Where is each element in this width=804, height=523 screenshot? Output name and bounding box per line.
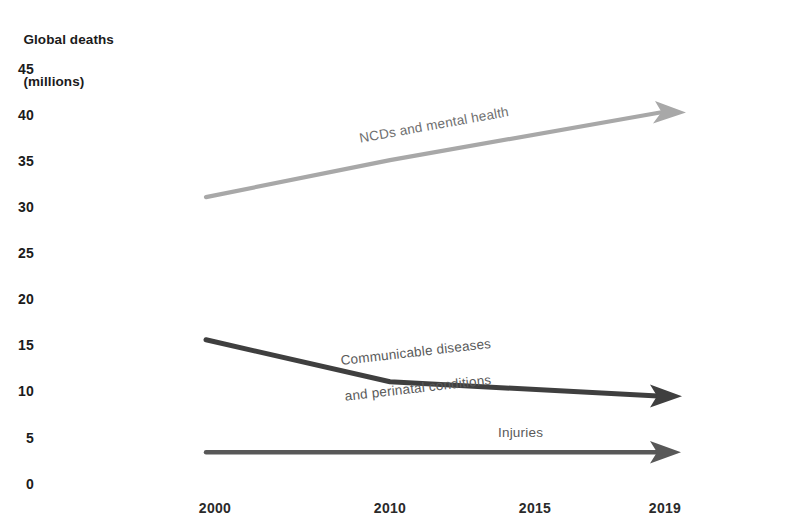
series-label-communicable-line1: Communicable diseases <box>340 336 492 368</box>
chart-container: Global deaths (millions) 45 40 35 30 25 … <box>0 0 804 523</box>
series-label-communicable: Communicable diseases and perinatal cond… <box>322 317 498 425</box>
x-tick-2015: 2015 <box>500 500 570 516</box>
series-label-communicable-line2: and perinatal conditions <box>344 372 492 404</box>
series-label-injuries: Injuries <box>498 424 543 442</box>
x-tick-2010: 2010 <box>355 500 425 516</box>
series-line-injuries <box>206 441 681 463</box>
x-tick-2019: 2019 <box>630 500 700 516</box>
chart-plot-area <box>0 0 804 523</box>
x-tick-2000: 2000 <box>180 500 250 516</box>
